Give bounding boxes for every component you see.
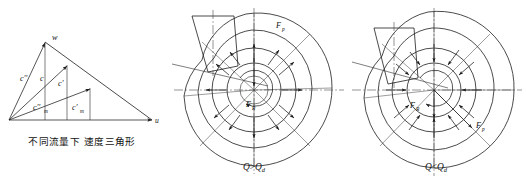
svg-text:Q<Qd: Q<Qd bbox=[425, 162, 448, 173]
svg-text:F: F bbox=[409, 101, 416, 110]
svg-text:p: p bbox=[481, 126, 485, 132]
svg-text:F: F bbox=[475, 121, 482, 130]
svg-text:m: m bbox=[44, 108, 48, 114]
volute-outer-wall bbox=[184, 13, 332, 166]
svg-text:p: p bbox=[281, 26, 285, 32]
volute-body-low-flow bbox=[352, 8, 522, 176]
label-FR-high-flow: F R bbox=[245, 100, 256, 111]
volute-low-flow-drawing: F R F p Q<Qd bbox=[348, 0, 526, 188]
label-w: w bbox=[52, 33, 58, 42]
caption-velocity-triangle: 不同流量下 速度三角形 bbox=[28, 136, 135, 147]
label-c-prime: c' bbox=[58, 79, 64, 88]
label-cm-prime: c' m bbox=[72, 103, 84, 114]
panel-velocity-triangle: w u c'' c c' c'' m c' m 不同流量下 速度三角形 bbox=[0, 0, 172, 188]
velocity-triangle-drawing: w u c'' c c' c'' m c' m 不同流量下 速度三角形 bbox=[0, 0, 172, 188]
caption-high-flow: Q>Qd bbox=[243, 162, 266, 173]
svg-text:F: F bbox=[245, 100, 252, 109]
caption-low-flow: Q<Qd bbox=[425, 162, 448, 173]
panel-low-flow: F R F p Q<Qd bbox=[348, 0, 526, 188]
svg-text:m: m bbox=[80, 108, 84, 114]
rotation-direction-arc bbox=[420, 70, 453, 106]
svg-text:c'': c'' bbox=[33, 103, 40, 112]
volute-high-flow-drawing: F p F R Q>Qd bbox=[172, 0, 348, 188]
svg-text:Q>Qd: Q>Qd bbox=[243, 162, 266, 173]
svg-text:R: R bbox=[415, 106, 420, 112]
label-u: u bbox=[155, 116, 159, 125]
svg-text:F: F bbox=[275, 21, 282, 30]
svg-text:R: R bbox=[251, 105, 256, 111]
figure-root: w u c'' c c' c'' m c' m 不同流量下 速度三角形 bbox=[0, 0, 526, 188]
label-cm-double-prime: c'' m bbox=[33, 103, 48, 114]
label-Fp-high-flow: F p bbox=[275, 21, 285, 32]
label-c: c bbox=[40, 74, 44, 83]
svg-text:c': c' bbox=[72, 103, 78, 112]
volute-body-high-flow bbox=[172, 8, 344, 174]
label-c-double-prime: c'' bbox=[20, 74, 27, 83]
panel-high-flow: F p F R Q>Qd bbox=[172, 0, 348, 188]
